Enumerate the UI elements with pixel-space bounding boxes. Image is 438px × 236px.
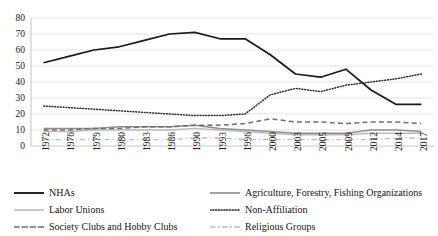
- x-axis-tick-label: 1993: [218, 132, 228, 151]
- x-axis-tick-label: 1986: [167, 132, 177, 151]
- legend-item-label: Non-Affiliation: [245, 204, 308, 215]
- legend-item[interactable]: Religious Groups: [210, 221, 438, 232]
- legend-item[interactable]: Non-Affiliation: [210, 204, 438, 215]
- legend-item-label: Society Clubs and Hobby Clubs: [49, 221, 177, 232]
- legend-swatch-icon: [14, 223, 44, 231]
- legend-item-label: Labor Unions: [49, 204, 104, 215]
- series-lines: [44, 32, 422, 139]
- x-axis-tick-label: 1990: [192, 132, 202, 151]
- line-chart: 01020304050607080 1972197619791980198319…: [0, 0, 438, 236]
- x-axis-tick-label: 2005: [318, 132, 328, 151]
- y-axis-tick-label: 50: [16, 61, 26, 71]
- y-axis-tick-label: 0: [20, 141, 25, 151]
- series-line: [44, 32, 422, 104]
- y-axis-tick-label: 40: [16, 77, 26, 87]
- series-line: [44, 74, 422, 116]
- x-axis-tick-label: 2000: [268, 132, 278, 151]
- x-axis-tick-label: 2012: [369, 132, 379, 151]
- series-line: [44, 125, 422, 133]
- x-axis-tick-label: 1983: [142, 132, 152, 151]
- x-axis-tick-label: 2003: [293, 132, 303, 151]
- legend-item-label: NHAs: [49, 187, 75, 198]
- x-axis-tick-label: 1996: [243, 132, 253, 151]
- chart-legend: NHAsAgriculture, Forestry, Fishing Organ…: [0, 184, 438, 236]
- legend-item-label: Religious Groups: [245, 221, 315, 232]
- legend-swatch-icon: [210, 206, 240, 214]
- legend-item[interactable]: Labor Unions: [14, 204, 210, 215]
- x-axis-tick-label: 2009: [344, 132, 354, 151]
- legend-item[interactable]: NHAs: [14, 187, 210, 198]
- legend-swatch-icon: [14, 189, 44, 197]
- legend-swatch-icon: [210, 223, 240, 231]
- y-axis-tick-label: 60: [16, 45, 26, 55]
- x-axis-tick-label: 1979: [92, 132, 102, 151]
- y-axis-tick-label: 80: [16, 13, 26, 23]
- x-axis-labels: 1972197619791980198319861990199319962000…: [41, 132, 429, 151]
- legend-item-label: Agriculture, Forestry, Fishing Organizat…: [245, 187, 422, 198]
- y-axis-tick-label: 70: [16, 29, 26, 39]
- legend-item[interactable]: Society Clubs and Hobby Clubs: [14, 221, 210, 232]
- x-axis-tick-label: 2014: [394, 132, 404, 151]
- chart-canvas: 01020304050607080 1972197619791980198319…: [0, 0, 438, 182]
- y-axis-tick-label: 20: [16, 109, 26, 119]
- y-axis-tick-label: 30: [16, 93, 26, 103]
- x-axis-tick-label: 1976: [66, 132, 76, 151]
- y-axis-labels: 01020304050607080: [16, 13, 26, 151]
- plot-area: 01020304050607080 1972197619791980198319…: [0, 0, 438, 182]
- x-axis-tick-label: 1980: [117, 132, 127, 151]
- legend-swatch-icon: [14, 206, 44, 214]
- x-axis-tick-label: 2017: [419, 132, 429, 151]
- x-axis-tick-label: 1972: [41, 132, 51, 151]
- y-axis-tick-label: 10: [16, 125, 26, 135]
- legend-item[interactable]: Agriculture, Forestry, Fishing Organizat…: [210, 187, 438, 198]
- legend-swatch-icon: [210, 189, 240, 197]
